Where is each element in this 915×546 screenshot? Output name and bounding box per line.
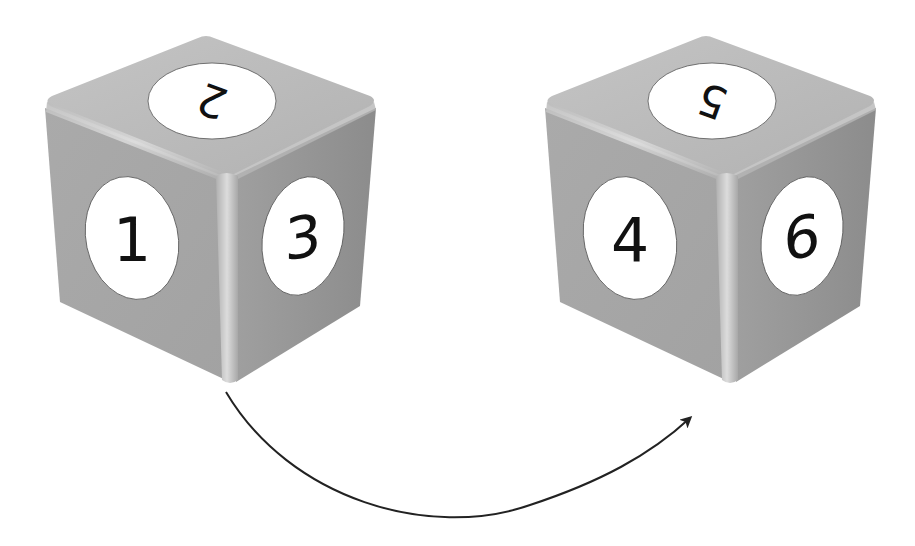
arrow-path xyxy=(226,392,690,517)
numeral-left: 4 xyxy=(611,205,649,275)
right-cube: 5 4 6 xyxy=(545,36,876,383)
dice-diagram: 2 1 3 5 4 6 xyxy=(0,0,915,546)
top-face-circle: 2 xyxy=(148,63,276,139)
numeral-left: 1 xyxy=(113,205,151,275)
left-cube: 2 1 3 xyxy=(45,36,376,383)
top-face-circle: 5 xyxy=(648,63,776,139)
curved-arrow xyxy=(226,392,690,517)
numeral-right: 3 xyxy=(285,201,322,275)
numeral-right: 6 xyxy=(784,201,821,275)
